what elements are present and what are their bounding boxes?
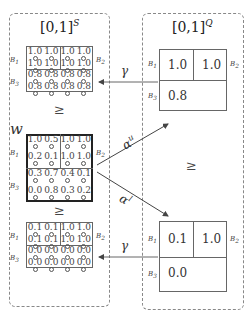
state-dot-icon [65,144,70,149]
grid-cell: 0.0 [76,258,92,272]
cell-value: 0.0 [77,257,91,267]
state-dot-icon [33,144,38,149]
cell-value: 1.0 [77,234,91,244]
state-dot-icon [49,267,54,272]
cell-value: 1.0 [28,46,42,56]
cell-value: 0.8 [60,69,74,79]
cell-value: 0.1 [44,222,58,232]
grid-cell: 1.0 [60,135,76,149]
grid-cell: 0.1 [43,152,59,166]
cell-value: 0.8 [28,69,42,79]
left-top-grid-b2-label: B2 [96,56,105,65]
state-dot-icon [81,195,86,200]
state-dot-icon [81,91,86,96]
cell-value: 0.1 [77,168,91,178]
cell-value: 0.1 [28,234,42,244]
cell-value: 0.2 [77,185,91,195]
left-top-grid-b1-label: B1 [10,56,19,65]
cell-value: 0.1 [28,222,42,232]
left-top-grid-b3-label: B3 [10,78,19,87]
grid-cell: 0.7 [43,169,59,183]
cell-value: 1.0 [77,151,91,161]
cell-value: 0.3 [28,168,42,178]
cell-value: 0.2 [28,151,42,161]
cell-value: 0.4 [60,168,74,178]
state-dot-icon [33,178,38,183]
cell-value: 1.0 [60,151,74,161]
left-bottom-grid-b3-label: B3 [10,254,19,263]
cell-value: 1.0 [77,134,91,144]
state-dot-icon [33,91,38,96]
grid-cell: 0.8 [76,82,92,96]
left-bottom-grid-b1-label: B1 [10,232,19,241]
cell-value: 1.0 [44,58,58,68]
grid-cell: 0.8 [43,82,59,96]
cell-value: 0.8 [77,69,91,79]
cell-value: 0.8 [60,81,74,91]
grid-cell: 0.1 [76,169,92,183]
left-bottom-grid-b2-label: B2 [96,232,105,241]
cell-value: 1.0 [60,58,74,68]
w-grid-b3-label: B3 [10,182,19,191]
state-dot-icon [65,91,70,96]
cell-value: 0.8 [28,81,42,91]
cell-value: 0.8 [44,81,58,91]
cell-value: 1.0 [77,58,91,68]
cell-value: 0.3 [60,185,74,195]
cell-value: 0.0 [44,257,58,267]
grid-cell: 0.2 [76,186,92,200]
cell-value: 0.1 [44,151,58,161]
cell-value: 0.8 [77,81,91,91]
grid-cell: 0.0 [60,258,76,272]
cell-value: 0.0 [44,245,58,255]
cell-value: 0.0 [28,245,42,255]
grid-cell: 0.4 [60,169,76,183]
cell-value: 1.0 [60,134,74,144]
grid-cell: 0.2 [27,152,43,166]
grid-cell: 0.8 [43,186,59,200]
w-grid-b2-label: B2 [96,149,105,158]
grid-cell: 0.5 [43,135,59,149]
state-dot-icon [49,91,54,96]
state-dot-icon [65,161,70,166]
state-dot-icon [81,178,86,183]
grid-cell: 0.0 [27,186,43,200]
state-dot-icon [65,195,70,200]
state-dot-icon [65,178,70,183]
cell-value: 1.0 [77,46,91,56]
grid-cell: 0.8 [60,82,76,96]
grid-cell: 0.3 [60,186,76,200]
cell-value: 0.0 [60,257,74,267]
gamma-bottom-label: γ [121,239,128,253]
grid-cell: 1.0 [76,135,92,149]
cell-value: 0.5 [44,134,58,144]
state-dot-icon [81,267,86,272]
cell-value: 1.0 [60,222,74,232]
grid-cell: 0.3 [27,169,43,183]
state-dot-icon [49,178,54,183]
cell-value: 1.0 [28,134,42,144]
state-dot-icon [33,161,38,166]
cell-value: 0.8 [44,69,58,79]
state-dot-icon [81,144,86,149]
state-dot-icon [49,144,54,149]
grid-cell: 1.0 [27,135,43,149]
grid-cell: 1.0 [60,152,76,166]
cell-value: 1.0 [77,222,91,232]
grid-cell: 1.0 [76,152,92,166]
state-dot-icon [33,195,38,200]
cell-value: 0.0 [28,257,42,267]
state-dot-icon [49,161,54,166]
grid-cell: 0.8 [27,82,43,96]
state-dot-icon [81,161,86,166]
grid-cell: 0.0 [43,258,59,272]
state-dot-icon [65,267,70,272]
w-grid-b1-label: B1 [10,149,19,158]
gamma-top-label: γ [121,64,128,78]
state-dot-icon [33,267,38,272]
cell-value: 0.7 [44,168,58,178]
cell-value: 1.0 [44,46,58,56]
grid-cell: 0.0 [27,258,43,272]
cell-value: 0.8 [44,185,58,195]
cell-value: 0.0 [77,245,91,255]
